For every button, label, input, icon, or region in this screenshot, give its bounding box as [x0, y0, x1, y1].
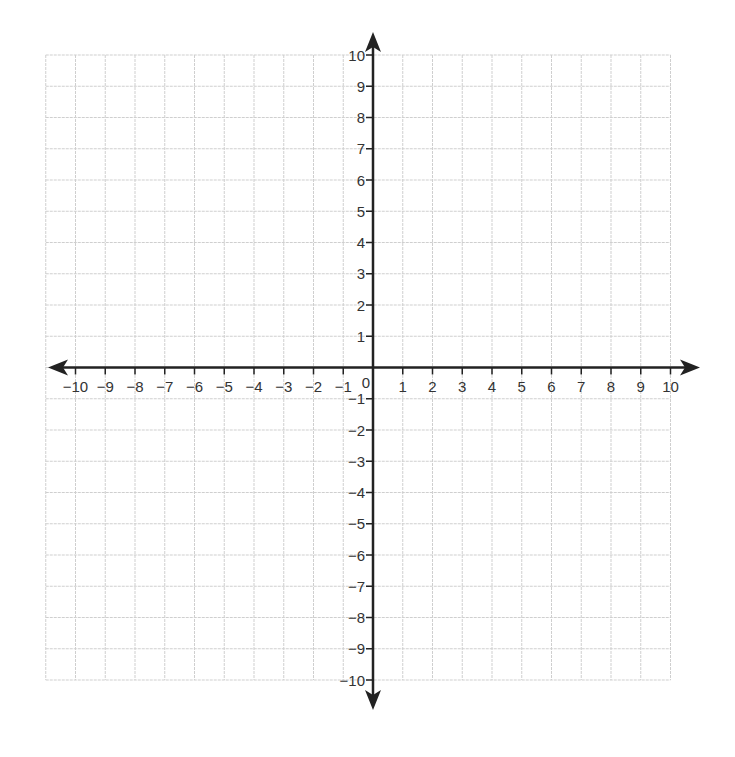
coordinate-plane: −10−9−8−7−6−5−4−3−2−112345678910−10−9−8−…	[0, 0, 735, 757]
x-tick-label: 7	[577, 378, 585, 395]
x-tick-label: −5	[216, 378, 233, 395]
y-tick-label: −8	[348, 609, 365, 626]
x-tick-label: 9	[637, 378, 645, 395]
x-tick-label: 5	[518, 378, 526, 395]
x-tick-label: −8	[126, 378, 143, 395]
y-tick-label: 5	[357, 203, 365, 220]
axes	[48, 32, 700, 710]
y-tick-label: −7	[348, 578, 365, 595]
y-tick-label: −4	[348, 484, 365, 501]
y-tick-label: 1	[357, 328, 365, 345]
x-tick-label: −10	[63, 378, 88, 395]
x-tick-label: −7	[156, 378, 173, 395]
origin-label: 0	[362, 374, 370, 391]
y-tick-label: 6	[357, 172, 365, 189]
y-tick-label: 8	[357, 109, 365, 126]
y-tick-label: −6	[348, 547, 365, 564]
y-tick-label: 3	[357, 265, 365, 282]
y-tick-label: −5	[348, 515, 365, 532]
x-tick-label: −9	[97, 378, 114, 395]
x-tick-label: 2	[428, 378, 436, 395]
x-tick-label: −2	[305, 378, 322, 395]
x-tick-label: −4	[245, 378, 262, 395]
x-tick-label: 10	[662, 378, 679, 395]
x-tick-label: 8	[607, 378, 615, 395]
y-tick-label: 2	[357, 297, 365, 314]
x-tick-label: 1	[399, 378, 407, 395]
x-tick-label: 6	[547, 378, 555, 395]
x-tick-label: −3	[275, 378, 292, 395]
y-tick-label: −1	[348, 390, 365, 407]
x-tick-label: 4	[488, 378, 496, 395]
y-tick-label: −10	[340, 672, 365, 689]
y-tick-label: 7	[357, 140, 365, 157]
x-tick-label: −6	[186, 378, 203, 395]
y-tick-label: 10	[348, 47, 365, 64]
y-tick-label: 4	[357, 234, 365, 251]
y-tick-label: −9	[348, 640, 365, 657]
y-tick-label: −3	[348, 453, 365, 470]
x-tick-label: 3	[458, 378, 466, 395]
y-tick-label: 9	[357, 78, 365, 95]
y-tick-label: −2	[348, 422, 365, 439]
